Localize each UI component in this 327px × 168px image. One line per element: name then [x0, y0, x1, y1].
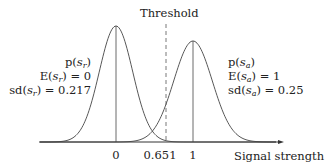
threshold-label: Threshold — [140, 6, 199, 20]
tick-0: 0 — [112, 148, 119, 162]
signal-detection-diagram: 0 0.651 1 Signal strength Threshold p(sr… — [0, 0, 327, 168]
label-e-sa: E(sa) = 1 — [228, 69, 280, 84]
label-sd-sa: sd(sa) = 0.25 — [228, 83, 303, 98]
label-p-sr: p(sr) — [65, 55, 91, 70]
label-e-sr: E(sr) = 0 — [40, 69, 91, 84]
label-sd-sr: sd(sr) = 0.217 — [9, 83, 91, 98]
tick-1: 1 — [189, 148, 196, 162]
tick-threshold: 0.651 — [144, 148, 177, 162]
label-p-sa: p(sa) — [228, 55, 255, 70]
axis-arrow-icon — [278, 140, 284, 144]
x-axis-label: Signal strength — [234, 149, 325, 163]
